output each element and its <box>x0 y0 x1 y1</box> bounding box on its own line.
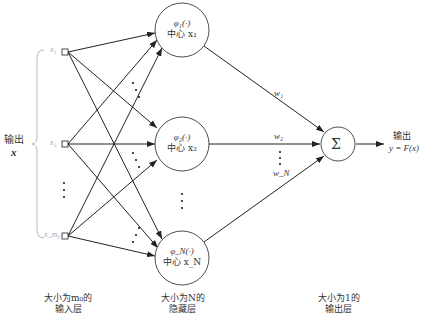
hidden-center-1: 中心 x₁ <box>155 29 209 40</box>
weight-w1: w₁ <box>274 88 283 99</box>
input-brace <box>32 50 44 238</box>
weight-w2: w₂ <box>274 131 283 142</box>
hidden-node-1-text: φ₁(·) 中心 x₁ <box>155 18 209 40</box>
hidden-func-1: φ₁(·) <box>155 18 209 29</box>
input-output-label: 输出 <box>4 134 24 145</box>
output-label: 输出 <box>393 131 411 142</box>
input-label-xm0: x_m₀ <box>44 230 60 239</box>
hidden-node-N-text: φ_N(·) 中心 x_N <box>155 246 209 268</box>
input-label-x1: x₁ <box>50 45 56 54</box>
rbf-network-diagram <box>0 0 428 318</box>
hidden-center-N: 中心 x_N <box>155 257 209 268</box>
output-layer-caption: 大小为1的 输出层 <box>318 293 360 315</box>
output-formula: y = F(x) <box>389 143 419 154</box>
input-node-1 <box>62 49 68 55</box>
input-node-2 <box>62 141 68 147</box>
hidden-center-2: 中心 x₂ <box>155 143 209 154</box>
weight-wN: w_N <box>273 168 290 179</box>
hidden-layer-caption: 大小为N的 隐藏层 <box>161 293 205 315</box>
input-layer-caption: 大小为m₀的 输入层 <box>44 293 92 315</box>
hidden-func-N: φ_N(·) <box>155 246 209 257</box>
input-label-x2: x₂ <box>50 138 56 147</box>
hidden-func-2: φ₂(·) <box>155 132 209 143</box>
hidden-node-2-text: φ₂(·) 中心 x₂ <box>155 132 209 154</box>
input-vector-x: x <box>11 147 17 158</box>
sigma-symbol: Σ <box>331 136 341 152</box>
input-node-m0 <box>62 233 68 239</box>
